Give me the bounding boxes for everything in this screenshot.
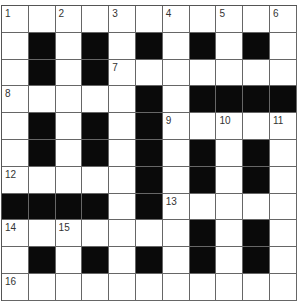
grid-cell[interactable] xyxy=(109,274,136,301)
grid-cell[interactable] xyxy=(29,220,56,247)
clue-number: 9 xyxy=(166,116,172,126)
grid-cell[interactable] xyxy=(243,60,270,87)
grid-cell[interactable] xyxy=(216,247,243,274)
grid-cell[interactable] xyxy=(109,113,136,140)
grid-cell-black xyxy=(82,194,109,221)
grid-cell[interactable] xyxy=(270,194,297,221)
grid-cell[interactable] xyxy=(270,167,297,194)
grid-cell[interactable] xyxy=(270,33,297,60)
grid-cell[interactable] xyxy=(270,247,297,274)
grid-cell[interactable] xyxy=(216,274,243,301)
grid-cell-black xyxy=(190,220,217,247)
grid-cell[interactable]: 10 xyxy=(216,113,243,140)
grid-cell[interactable] xyxy=(29,274,56,301)
grid-cell[interactable] xyxy=(190,274,217,301)
grid-cell[interactable] xyxy=(82,220,109,247)
grid-cell[interactable] xyxy=(2,113,29,140)
grid-cell[interactable]: 4 xyxy=(163,6,190,33)
grid-cell[interactable]: 1 xyxy=(2,6,29,33)
grid-cell[interactable] xyxy=(82,86,109,113)
grid-cell[interactable] xyxy=(2,247,29,274)
grid-cell[interactable] xyxy=(56,86,83,113)
grid-cell[interactable] xyxy=(190,194,217,221)
grid-cell[interactable]: 6 xyxy=(270,6,297,33)
grid-cell[interactable] xyxy=(163,167,190,194)
grid-cell[interactable] xyxy=(163,33,190,60)
grid-cell[interactable] xyxy=(136,220,163,247)
grid-cell[interactable] xyxy=(243,274,270,301)
grid-cell[interactable] xyxy=(163,274,190,301)
grid-cell[interactable] xyxy=(270,60,297,87)
grid-cell-black xyxy=(136,140,163,167)
grid-cell[interactable]: 11 xyxy=(270,113,297,140)
grid-cell[interactable]: 8 xyxy=(2,86,29,113)
grid-cell[interactable]: 16 xyxy=(2,274,29,301)
grid-cell[interactable] xyxy=(2,33,29,60)
grid-cell[interactable] xyxy=(243,6,270,33)
grid-cell[interactable] xyxy=(270,140,297,167)
grid-cell[interactable]: 2 xyxy=(56,6,83,33)
grid-cell[interactable] xyxy=(163,86,190,113)
grid-cell[interactable] xyxy=(136,60,163,87)
grid-cell[interactable] xyxy=(29,167,56,194)
grid-cell[interactable] xyxy=(56,33,83,60)
grid-cell[interactable] xyxy=(136,274,163,301)
grid-cell-black xyxy=(216,86,243,113)
grid-cell-black xyxy=(56,194,83,221)
grid-cell[interactable] xyxy=(109,247,136,274)
grid-cell[interactable] xyxy=(109,140,136,167)
grid-cell[interactable] xyxy=(29,6,56,33)
grid-cell[interactable] xyxy=(56,113,83,140)
grid-cell[interactable] xyxy=(109,220,136,247)
clue-number: 13 xyxy=(166,197,177,207)
grid-cell[interactable]: 14 xyxy=(2,220,29,247)
clue-number: 10 xyxy=(219,116,230,126)
grid-cell[interactable]: 12 xyxy=(2,167,29,194)
grid-cell[interactable] xyxy=(56,140,83,167)
grid-cell[interactable] xyxy=(163,60,190,87)
grid-cell[interactable] xyxy=(216,140,243,167)
grid-cell[interactable] xyxy=(56,167,83,194)
grid-cell[interactable] xyxy=(82,167,109,194)
grid-cell[interactable] xyxy=(2,140,29,167)
grid-cell[interactable] xyxy=(109,167,136,194)
grid-cell[interactable] xyxy=(270,220,297,247)
grid-cell[interactable]: 5 xyxy=(216,6,243,33)
grid-cell[interactable] xyxy=(190,60,217,87)
grid-cell[interactable] xyxy=(82,6,109,33)
grid-cell[interactable] xyxy=(136,6,163,33)
grid-cell[interactable]: 7 xyxy=(109,60,136,87)
grid-cell[interactable] xyxy=(56,274,83,301)
grid-cell[interactable] xyxy=(56,60,83,87)
grid-cell[interactable] xyxy=(243,113,270,140)
grid-cell[interactable] xyxy=(216,194,243,221)
grid-cell[interactable]: 9 xyxy=(163,113,190,140)
grid-cell[interactable] xyxy=(163,140,190,167)
grid-cell-black xyxy=(2,194,29,221)
grid-cell[interactable] xyxy=(190,6,217,33)
grid-cell[interactable]: 15 xyxy=(56,220,83,247)
grid-cell-black xyxy=(243,86,270,113)
grid-cell[interactable] xyxy=(270,274,297,301)
grid-cell[interactable] xyxy=(163,247,190,274)
grid-cell[interactable] xyxy=(109,194,136,221)
grid-cell[interactable] xyxy=(216,167,243,194)
clue-number: 3 xyxy=(112,9,118,19)
grid-cell[interactable] xyxy=(216,60,243,87)
clue-number: 1 xyxy=(5,9,11,19)
grid-cell[interactable] xyxy=(109,33,136,60)
grid-cell[interactable] xyxy=(109,86,136,113)
grid-cell[interactable] xyxy=(29,86,56,113)
grid-cell[interactable] xyxy=(2,60,29,87)
grid-cell[interactable] xyxy=(216,33,243,60)
grid-cell[interactable]: 13 xyxy=(163,194,190,221)
grid-cell-black xyxy=(29,60,56,87)
grid-cell[interactable] xyxy=(216,220,243,247)
grid-cell[interactable]: 3 xyxy=(109,6,136,33)
grid-cell[interactable] xyxy=(82,274,109,301)
grid-cell[interactable] xyxy=(163,220,190,247)
grid-cell[interactable] xyxy=(56,247,83,274)
grid-cell[interactable] xyxy=(190,113,217,140)
grid-cell[interactable] xyxy=(243,194,270,221)
grid-cell-black xyxy=(82,140,109,167)
